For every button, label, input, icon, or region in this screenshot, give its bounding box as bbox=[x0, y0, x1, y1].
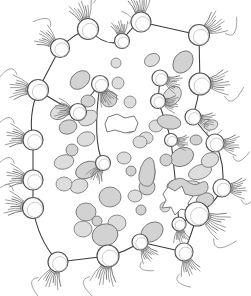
cilia-tuft-icon bbox=[4, 191, 25, 215]
flagellum-tendril bbox=[233, 152, 250, 162]
granule bbox=[66, 144, 78, 156]
cell-25[interactable] bbox=[175, 243, 200, 287]
cilia-tuft-icon bbox=[111, 21, 128, 36]
granule bbox=[133, 136, 147, 148]
cilium bbox=[174, 230, 178, 242]
cilium bbox=[178, 231, 179, 240]
cell-06[interactable] bbox=[0, 69, 49, 101]
cilium bbox=[183, 261, 184, 273]
cilia-tuft-icon bbox=[10, 75, 30, 99]
cilia-tuft-icon bbox=[5, 124, 25, 147]
boundary-cell-group bbox=[0, 0, 251, 296]
cilia-tuft-icon bbox=[209, 70, 230, 95]
flagellum-tendril bbox=[177, 274, 191, 287]
cilium bbox=[16, 90, 28, 91]
granule bbox=[128, 190, 142, 202]
cilium bbox=[12, 138, 24, 139]
flagellum-tendril bbox=[225, 87, 244, 101]
granule bbox=[75, 129, 97, 148]
granule bbox=[112, 77, 124, 89]
peanut-granule bbox=[139, 158, 155, 187]
cilia-tuft-icon bbox=[90, 265, 116, 287]
flagellum-tendril bbox=[0, 117, 14, 126]
cilium bbox=[122, 25, 123, 35]
granule bbox=[142, 51, 162, 69]
flagellum-tendril bbox=[0, 184, 13, 194]
cell-20[interactable] bbox=[185, 202, 236, 248]
cell-19[interactable] bbox=[213, 178, 251, 204]
cell-01[interactable] bbox=[69, 0, 98, 40]
granule bbox=[117, 152, 131, 164]
flagellum-tendril bbox=[140, 262, 154, 271]
cell-03[interactable] bbox=[33, 18, 69, 57]
cell-16[interactable] bbox=[0, 157, 43, 190]
granule bbox=[74, 221, 92, 237]
cell-04[interactable] bbox=[111, 11, 132, 48]
cilium bbox=[177, 136, 187, 139]
flagellum-tendril bbox=[80, 0, 96, 3]
cell-12[interactable] bbox=[0, 117, 43, 150]
granule bbox=[124, 96, 136, 108]
cilium bbox=[12, 178, 24, 179]
vacuole-upper bbox=[105, 114, 138, 133]
cilium bbox=[209, 215, 231, 217]
cilium bbox=[168, 76, 180, 78]
cell-23[interactable] bbox=[83, 245, 119, 296]
granule bbox=[99, 187, 121, 207]
cilium bbox=[11, 206, 23, 207]
cell-diagram-figure: Cell schematic with ciliated boundary ce… bbox=[0, 0, 251, 296]
flagellum-tendril bbox=[241, 194, 251, 204]
cilium bbox=[101, 170, 102, 181]
flagellum-tendril bbox=[31, 278, 38, 296]
granule bbox=[169, 47, 198, 77]
flagellum-tendril bbox=[225, 17, 237, 35]
granule bbox=[136, 205, 146, 215]
granule bbox=[190, 135, 202, 145]
flagellum-tendril bbox=[33, 18, 51, 26]
cell-22[interactable] bbox=[31, 252, 68, 296]
cell-02[interactable] bbox=[128, 0, 156, 32]
cilium bbox=[224, 143, 235, 144]
cilium bbox=[88, 6, 89, 20]
cilium bbox=[141, 0, 142, 13]
cilium bbox=[210, 88, 228, 95]
cilia-tuft-icon bbox=[5, 164, 25, 187]
granule bbox=[111, 58, 121, 68]
diagram-canvas: Cell schematic with ciliated boundary ce… bbox=[0, 0, 251, 296]
cilia-tuft-icon bbox=[174, 229, 190, 243]
cilium bbox=[106, 267, 107, 280]
flagellum-tendril bbox=[0, 157, 14, 166]
flagellum-tendril bbox=[83, 277, 93, 296]
cilium bbox=[69, 6, 81, 21]
flagellum-tendril bbox=[214, 239, 237, 248]
cilium bbox=[200, 113, 212, 115]
granule bbox=[126, 166, 136, 176]
granule bbox=[160, 154, 172, 166]
cilia-tuft-icon bbox=[230, 178, 247, 199]
cell-05[interactable] bbox=[189, 11, 237, 46]
granule bbox=[56, 177, 72, 191]
cilia-tuft-icon bbox=[222, 135, 239, 156]
flagellum-tendril bbox=[0, 69, 17, 80]
cilium bbox=[201, 117, 212, 118]
cell-07[interactable] bbox=[189, 70, 244, 101]
cilium bbox=[230, 178, 242, 184]
granule bbox=[66, 67, 93, 93]
